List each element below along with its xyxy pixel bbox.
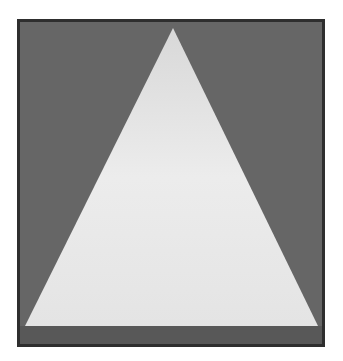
shape-illustration: [0, 0, 343, 361]
bottom-band: [20, 326, 322, 344]
triangle: [25, 28, 318, 326]
